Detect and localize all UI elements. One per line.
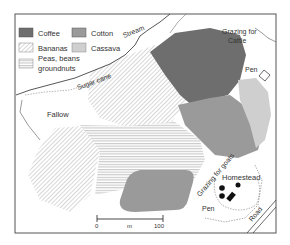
hut-icon — [219, 193, 225, 199]
legend-groundnuts: groundnuts — [38, 64, 76, 73]
pen-south-label: Pen — [202, 205, 215, 212]
legend-cassava: Cassava — [91, 44, 121, 53]
peas-swatch — [19, 59, 33, 68]
legend-coffee: Coffee — [38, 29, 60, 38]
coffee-swatch — [19, 28, 33, 37]
cotton-swatch — [72, 28, 86, 37]
map-canvas: 0 m 100 Coffee Cotton Bananas Cassava Pe… — [0, 0, 290, 245]
cotton-field-south — [120, 170, 194, 212]
pen-north-label: Pen — [245, 66, 258, 73]
hut-icon — [219, 185, 225, 191]
cattle-label: Cattle — [228, 37, 246, 44]
bananas-swatch — [19, 43, 33, 52]
legend-cotton: Cotton — [91, 29, 113, 38]
homestead-label: Homestead — [222, 173, 260, 182]
farm-map: 0 m 100 Coffee Cotton Bananas Cassava Pe… — [0, 0, 290, 245]
legend-peas: Peas, beans — [38, 54, 80, 63]
hut-icon — [236, 183, 241, 188]
scale-unit: m — [127, 223, 132, 229]
fallow-label: Fallow — [47, 110, 69, 119]
scale-end: 100 — [154, 223, 165, 229]
grazing-cattle-label: Grazing for — [222, 28, 257, 36]
legend-bananas: Bananas — [38, 44, 68, 53]
cassava-swatch — [72, 43, 86, 52]
